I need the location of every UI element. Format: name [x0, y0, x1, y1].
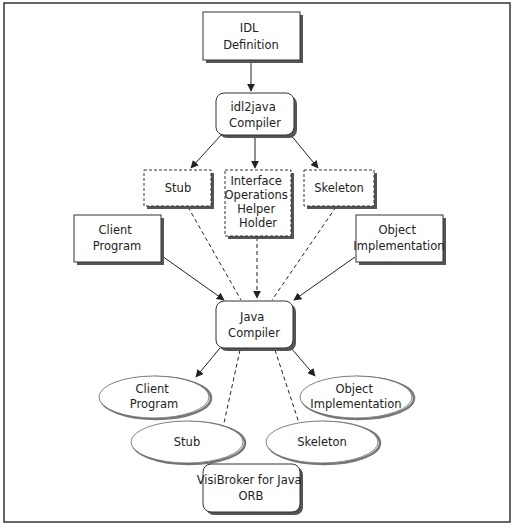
- edge-javac-to-client-out: [196, 348, 220, 377]
- svg-text:Skeleton: Skeleton: [314, 181, 364, 195]
- svg-text:Stub: Stub: [165, 181, 191, 195]
- node-idl-definition: IDL Definition: [203, 12, 303, 63]
- edge-javac-to-objimpl-out: [291, 348, 315, 376]
- node-client-program-source: Client Program: [74, 215, 164, 265]
- node-object-implementation-output: Object Implementation: [300, 376, 414, 419]
- edge-javac-to-skeleton-out: [275, 350, 299, 423]
- node-stub-output: Stub: [131, 421, 245, 464]
- node-idl2java-compiler: idl2java Compiler: [216, 93, 297, 138]
- node-skeleton-generated: Skeleton: [304, 170, 377, 209]
- edge-client-src-to-javac: [162, 256, 224, 300]
- edge-javac-to-stub-out: [224, 350, 240, 423]
- node-java-compiler: Java Compiler: [216, 301, 296, 351]
- node-object-implementation-source: Object Implementation: [353, 215, 446, 265]
- svg-text:Stub: Stub: [174, 435, 200, 449]
- node-client-program-output: Client Program: [99, 376, 211, 419]
- svg-text:Skeleton: Skeleton: [297, 435, 347, 449]
- node-visibroker-orb: VisiBroker for Java ORB: [197, 464, 306, 515]
- svg-text:Client Program: Client Program: [130, 382, 179, 411]
- edge-objimpl-src-to-javac: [294, 257, 355, 300]
- idl-to-java-build-diagram: IDL Definition idl2java Compiler Stub In…: [0, 0, 514, 528]
- node-stub-generated: Stub: [144, 170, 214, 209]
- edge-idl2java-to-stub: [191, 134, 222, 168]
- edge-idl2java-to-skeleton: [290, 134, 318, 168]
- node-skeleton-output: Skeleton: [266, 421, 380, 464]
- node-interface-generated: Interface Operations Helper Holder: [225, 170, 294, 239]
